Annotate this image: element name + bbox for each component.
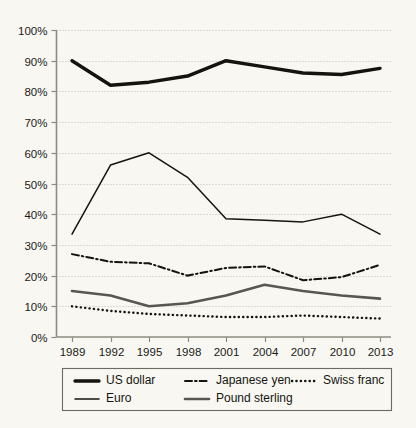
y-axis-tick-label: 0% (31, 332, 48, 344)
x-axis-labels-group: 198919921995199820012004200720102013 (60, 346, 394, 358)
x-axis-tick-label: 2010 (330, 346, 356, 358)
legend-label: Pound sterling (216, 391, 293, 405)
x-axis-tick-label: 2004 (253, 346, 279, 358)
legend-item-us-dollar: US dollar (75, 373, 155, 387)
x-axis-tick-label: 2013 (368, 346, 394, 358)
gridlines-group (57, 31, 392, 307)
legend-label: Swiss franc (323, 373, 384, 387)
x-axis-tick-label: 1995 (137, 346, 163, 358)
y-axis-tick-label: 70% (24, 117, 47, 129)
series-line-euro (72, 153, 380, 234)
y-axis-tick-label: 90% (24, 56, 47, 68)
x-axis-tick-label: 2001 (214, 346, 240, 358)
series-line-us-dollar (72, 61, 380, 86)
y-axis-tick-label: 10% (24, 301, 47, 313)
legend-label: US dollar (106, 373, 155, 387)
currency-turnover-line-chart: 0%10%20%30%40%50%60%70%80%90%100% 198919… (0, 0, 416, 428)
legend-item-pound-sterling: Pound sterling (185, 391, 293, 405)
series-line-swiss-franc (72, 306, 380, 318)
x-axis-tick-label: 2007 (291, 346, 317, 358)
x-axis-tick-label: 1998 (176, 346, 202, 358)
y-axis-tick-label: 80% (24, 86, 47, 98)
y-axis-labels-group: 0%10%20%30%40%50%60%70%80%90%100% (18, 25, 47, 344)
legend-item-euro: Euro (75, 391, 132, 405)
y-axis-tick-label: 60% (24, 148, 47, 160)
legend-label: Japanese yen (216, 373, 291, 387)
series-group (72, 61, 380, 319)
legend-label: Euro (106, 391, 132, 405)
legend-group: US dollarJapanese yenSwiss francEuroPoun… (75, 373, 384, 405)
legend-item-swiss-franc: Swiss franc (292, 373, 384, 387)
x-axis-tick-label: 1992 (99, 346, 125, 358)
chart-canvas: 0%10%20%30%40%50%60%70%80%90%100% 198919… (0, 0, 416, 428)
y-axis-tick-label: 50% (24, 179, 47, 191)
series-line-pound-sterling (72, 285, 380, 306)
y-axis-tick-label: 40% (24, 209, 47, 221)
series-line-japanese-yen (72, 254, 380, 280)
x-axis-tick-label: 1989 (60, 346, 86, 358)
y-axis-tick-label: 30% (24, 240, 47, 252)
y-axis-tick-label: 100% (18, 25, 47, 37)
legend-item-japanese-yen: Japanese yen (185, 373, 291, 387)
y-axis-tick-label: 20% (24, 271, 47, 283)
